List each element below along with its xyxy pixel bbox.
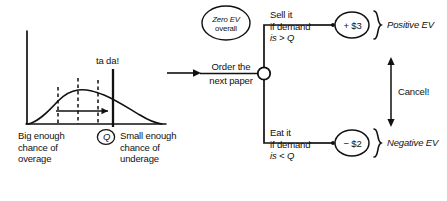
zero-ev-line-2: overall (205, 24, 247, 33)
branch-eat-label: Eat it if demand is < Q (270, 127, 310, 162)
root-label-line-2: next paper (203, 75, 259, 87)
branch-sell-line-3: is > Q (270, 32, 310, 44)
zero-ev-bubble-text: Zero EV overall (205, 15, 247, 33)
q-marker-label: Q (98, 131, 115, 143)
underage-caption-line-3: underage (120, 153, 176, 165)
overage-caption-line-2: chance of (18, 142, 65, 154)
branch-eat-line-1: Eat it (270, 127, 310, 139)
flow-arrow (167, 69, 201, 77)
payoff-negative-label: − $2 (336, 138, 369, 150)
cancel-label: Cancel! (398, 86, 429, 98)
cancel-double-arrow (387, 57, 394, 127)
underage-caption-line-1: Small enough (120, 130, 176, 142)
decision-tree-figure: ta da! Q Big enough chance of overage Sm… (0, 0, 447, 201)
branch-sell-label: Sell it if demand is > Q (270, 9, 310, 44)
root-label: Order the next paper (203, 61, 259, 84)
overage-caption: Big enough chance of overage (18, 130, 65, 165)
branch-sell-line-1: Sell it (270, 9, 310, 21)
payoff-positive-label: + $3 (336, 20, 369, 32)
underage-caption-line-2: chance of (120, 142, 176, 154)
branch-eat-line-2: if demand (270, 139, 310, 151)
decision-node (258, 67, 270, 79)
zero-ev-line-1: Zero EV (205, 15, 247, 24)
branch-sell-line-2: if demand (270, 21, 310, 33)
overage-caption-line-3: overage (18, 153, 65, 165)
brace-negative (374, 129, 381, 157)
brace-positive (374, 11, 381, 39)
demand-distribution-curve (28, 90, 162, 124)
outcome-negative-label: Negative EV (387, 137, 438, 149)
overage-caption-line-1: Big enough (18, 130, 65, 142)
ta-da-label: ta da! (96, 55, 119, 67)
root-label-line-1: Order the (203, 61, 259, 73)
underage-caption: Small enough chance of underage (120, 130, 176, 165)
outcome-positive-label: Positive EV (387, 19, 434, 31)
coverage-arrow (56, 108, 108, 114)
distribution-chart (26, 31, 166, 144)
branch-eat-line-3: is < Q (270, 150, 310, 162)
